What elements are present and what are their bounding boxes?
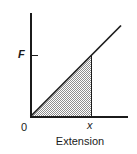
extension-tick-label: x — [87, 120, 93, 131]
x-axis-label: Extension — [48, 136, 112, 147]
origin-label: 0 — [21, 122, 27, 133]
force-tick-label: F — [18, 49, 25, 60]
force-extension-figure: Force Extension F 0 x — [0, 0, 137, 154]
